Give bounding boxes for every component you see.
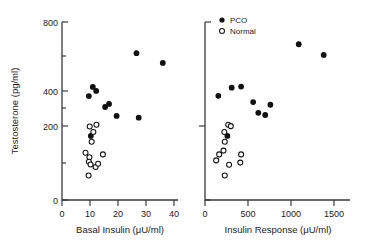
left-ytick-400: 400 [43, 87, 58, 97]
data-point-pco [250, 99, 256, 105]
figure-container: 800 400 200 0 0 10 20 30 40 Basal Insuli… [0, 0, 365, 248]
data-point-normal [222, 139, 227, 144]
left-points-layer [83, 50, 166, 178]
data-point-normal [227, 162, 232, 167]
data-point-normal [87, 124, 92, 129]
data-point-normal [89, 139, 94, 144]
data-point-pco [238, 84, 244, 90]
data-point-normal [217, 152, 222, 157]
legend-marker-normal [220, 29, 225, 34]
data-point-normal [96, 161, 101, 166]
data-point-pco [296, 41, 302, 47]
left-y-ticks [62, 22, 68, 200]
data-point-pco [106, 101, 112, 107]
data-point-normal [86, 173, 91, 178]
left-ytick-0: 0 [53, 196, 58, 206]
data-point-pco [114, 113, 120, 119]
panel-left: 800 400 200 0 0 10 20 30 40 Basal Insuli… [9, 18, 179, 235]
left-axes-spines [62, 22, 178, 200]
right-xtick-1000: 1000 [281, 209, 301, 219]
right-xtick-500: 500 [240, 209, 255, 219]
data-point-normal [88, 162, 93, 167]
data-point-pco [134, 50, 140, 56]
legend: PCO Normal [219, 16, 256, 36]
legend-marker-pco [219, 17, 224, 22]
left-x-ticks [62, 200, 174, 206]
right-xtick-1500: 1500 [324, 209, 344, 219]
data-point-normal [214, 158, 219, 163]
left-xtick-30: 30 [141, 209, 151, 219]
right-points-layer [214, 41, 327, 178]
left-ytick-800: 800 [43, 18, 58, 28]
data-point-normal [91, 129, 96, 134]
data-point-normal [94, 122, 99, 127]
right-xaxis-title: Insulin Response (μU/ml) [225, 224, 332, 235]
data-point-normal [222, 173, 227, 178]
right-xtick-0: 0 [202, 209, 207, 219]
data-point-normal [228, 124, 233, 129]
left-xtick-10: 10 [85, 209, 95, 219]
data-point-pco [136, 115, 142, 121]
data-point-pco [229, 85, 235, 91]
right-x-ticks [205, 200, 334, 206]
data-point-normal [83, 150, 88, 155]
data-point-normal [239, 152, 244, 157]
panel-right: 0 500 1000 1500 Insulin Response (μU/ml)… [199, 16, 350, 235]
left-xaxis-title: Basal Insulin (μU/ml) [76, 224, 164, 235]
data-point-normal [238, 160, 243, 165]
left-ytick-200: 200 [43, 122, 58, 132]
yaxis-title: Testosterone (pg/ml) [9, 68, 20, 155]
data-point-pco [86, 93, 92, 99]
data-point-normal [100, 152, 105, 157]
legend-label-normal: Normal [230, 27, 256, 36]
data-point-normal [222, 129, 227, 134]
data-point-pco [255, 110, 261, 116]
data-point-normal [221, 148, 226, 153]
data-point-pco [262, 112, 268, 118]
left-xtick-0: 0 [59, 209, 64, 219]
data-point-pco [267, 102, 273, 108]
data-point-pco [321, 52, 327, 58]
data-point-pco [215, 93, 221, 99]
data-point-pco [93, 88, 99, 94]
legend-label-pco: PCO [230, 16, 247, 25]
data-point-pco [160, 60, 166, 66]
left-xtick-20: 20 [113, 209, 123, 219]
scatter-figure-svg: 800 400 200 0 0 10 20 30 40 Basal Insuli… [0, 0, 365, 248]
left-xtick-40: 40 [169, 209, 179, 219]
